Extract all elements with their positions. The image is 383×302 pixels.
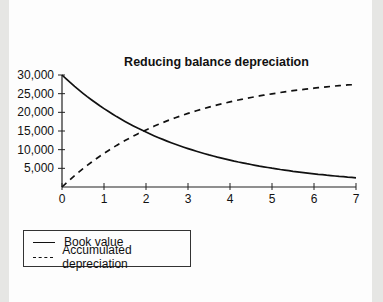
x-tick-label: 3 [185, 192, 192, 206]
legend-label: Accumulated depreciation [62, 243, 190, 271]
y-tick-label: 20,000 [17, 105, 54, 119]
legend: Book value Accumulated depreciation [23, 230, 191, 267]
y-tick-label: 30,000 [17, 68, 54, 82]
y-tick-label: 10,000 [17, 143, 54, 157]
x-tick-label: 6 [311, 192, 318, 206]
accumulated-depreciation-line [62, 84, 356, 187]
book-value-line [62, 75, 356, 178]
x-tick-label: 1 [101, 192, 108, 206]
legend-item-accumulated-depreciation: Accumulated depreciation [33, 250, 190, 264]
x-tick-label: 4 [227, 192, 234, 206]
dashed-line-icon [33, 257, 53, 258]
y-tick-label: 5,000 [24, 161, 54, 175]
x-tick-label: 2 [143, 192, 150, 206]
x-tick-label: 5 [269, 192, 276, 206]
y-tick-label: 25,000 [17, 87, 54, 101]
x-tick-label: 0 [59, 192, 66, 206]
x-tick-label: 7 [353, 192, 360, 206]
solid-line-icon [33, 242, 55, 243]
y-tick-label: 15,000 [17, 124, 54, 138]
